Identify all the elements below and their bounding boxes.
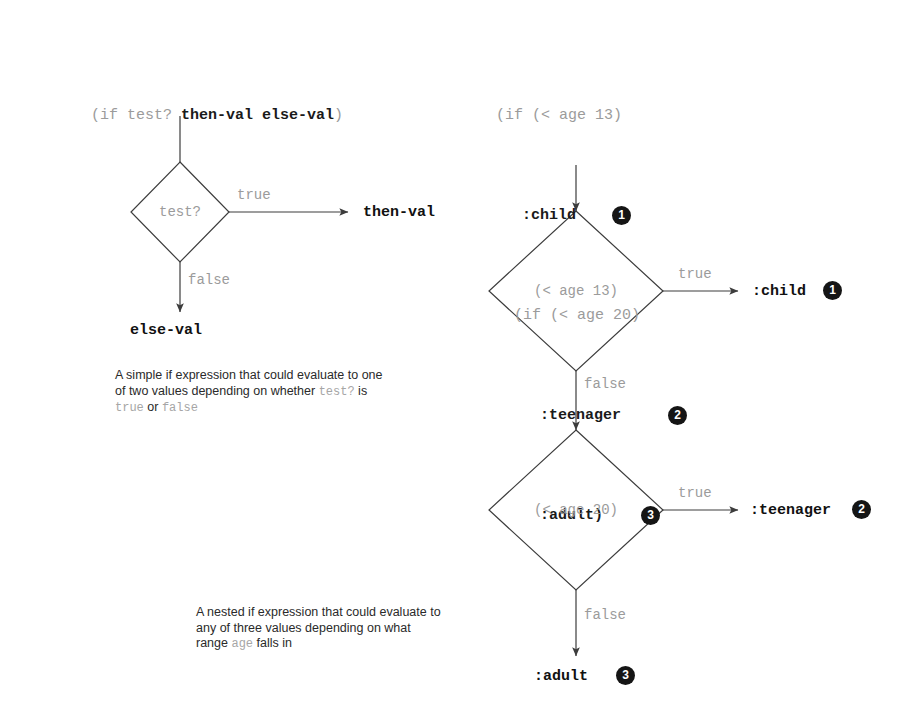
right-code-block: (if (< age 13) :child 1 (if (< age 20) :… [496, 28, 550, 578]
code-badge-1: 1 [612, 206, 631, 225]
code-line-1: :child 1 [496, 203, 550, 228]
right-decision1-label: (< age 13) [489, 283, 663, 299]
code-badge-2: 2 [668, 406, 687, 425]
left-true-edge-label: true [237, 187, 271, 203]
code-line-0: (if (< age 13) [496, 103, 550, 128]
left-caption-code-true: true [115, 401, 144, 415]
right-decision2-true-label: true [678, 485, 712, 501]
right-decision2-false-label: false [584, 607, 626, 623]
right-output-child: :child [752, 283, 806, 300]
code-line-2: (if (< age 20) [496, 303, 550, 328]
right-caption: A nested if expression that could evalua… [196, 605, 471, 653]
left-caption-line2-a: of two values depending on whether [115, 384, 319, 398]
left-caption-code-false: false [162, 401, 198, 415]
left-decision-label: test? [131, 204, 229, 220]
code-line-3-text: :teenager [540, 403, 621, 428]
right-output-teenager: :teenager [750, 502, 831, 519]
left-caption-line1: A simple if expression that could evalua… [115, 368, 383, 382]
left-caption-code-test: test? [319, 385, 355, 399]
left-caption-line2-b: is [355, 384, 368, 398]
figure-canvas: (if test? then-val else-val) test? true … [0, 0, 902, 720]
code-line-2-text: (if (< age 20) [514, 303, 640, 328]
left-code-space [253, 107, 262, 124]
right-decision2-label: (< age 20) [489, 502, 663, 518]
left-code-suffix: ) [334, 107, 343, 124]
left-caption: A simple if expression that could evalua… [115, 368, 390, 417]
right-decision1-true-label: true [678, 266, 712, 282]
left-code-else-val: else-val [262, 107, 334, 124]
left-caption-line3-mid: or [144, 400, 162, 414]
right-output-teenager-badge: 2 [852, 500, 871, 519]
code-line-0-text: (if (< age 13) [496, 103, 622, 128]
left-code-header: (if test? then-val else-val) [55, 90, 343, 141]
right-caption-line3-a: range [196, 636, 231, 650]
left-code-prefix: (if [91, 107, 127, 124]
left-then-val-output: then-val [363, 204, 435, 221]
right-output-child-badge: 1 [823, 281, 842, 300]
left-code-test: test? [127, 107, 181, 124]
right-caption-line2: any of three values depending on what [196, 621, 411, 635]
right-decision1-false-label: false [584, 376, 626, 392]
code-line-1-text: :child [522, 203, 576, 228]
code-line-3: :teenager 2 [496, 403, 550, 428]
right-caption-line1: A nested if expression that could evalua… [196, 605, 441, 619]
left-false-edge-label: false [188, 272, 230, 288]
right-caption-line3-b: falls in [253, 636, 292, 650]
left-code-then-val: then-val [181, 107, 253, 124]
right-caption-code-age: age [231, 637, 253, 651]
right-output-adult: :adult [534, 668, 588, 685]
right-output-adult-badge: 3 [616, 666, 635, 685]
left-else-val-output: else-val [130, 322, 202, 339]
